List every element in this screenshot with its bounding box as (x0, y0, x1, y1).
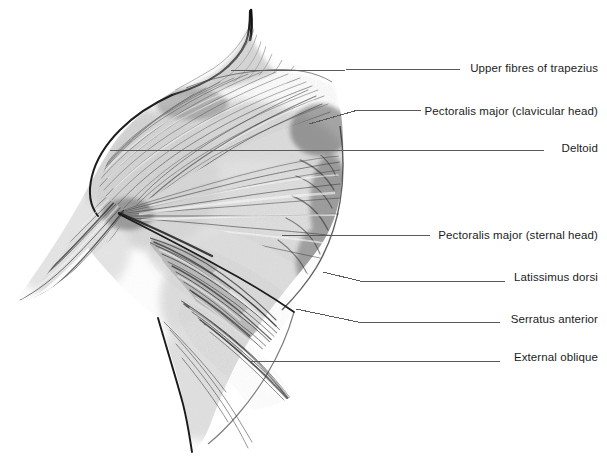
label-latissimus-dorsi: Latissimus dorsi (514, 272, 598, 284)
label-external-oblique: External oblique (514, 352, 598, 364)
anatomy-figure: Upper fibres of trapezius Pectoralis maj… (0, 0, 607, 457)
leader-line-latissimus-dorsi (323, 272, 505, 281)
label-pectoralis-major-clavicular-head: Pectoralis major (clavicular head) (425, 106, 598, 118)
label-serratus-anterior: Serratus anterior (511, 314, 598, 326)
label-trapezius-text: Upper fibres of trapezius (470, 63, 598, 75)
label-pectoralis-major-clavicular-head-text: Pectoralis major (clavicular head) (425, 106, 598, 118)
label-serratus-anterior-text: Serratus anterior (511, 314, 598, 326)
label-external-oblique-text: External oblique (514, 352, 598, 364)
leader-line-serratus-anterior (296, 309, 500, 322)
label-deltoid: Deltoid (562, 143, 599, 155)
label-latissimus-dorsi-text: Latissimus dorsi (514, 272, 598, 284)
label-pectoralis-major-sternal-head-text: Pectoralis major (sternal head) (438, 230, 598, 242)
leader-line-trapezius (231, 69, 462, 71)
label-trapezius: Upper fibres of trapezius (470, 63, 598, 75)
leader-line-pec-major-clavicular (309, 110, 421, 124)
label-deltoid-text: Deltoid (562, 143, 599, 155)
label-pectoralis-major-sternal-head: Pectoralis major (sternal head) (438, 230, 598, 242)
